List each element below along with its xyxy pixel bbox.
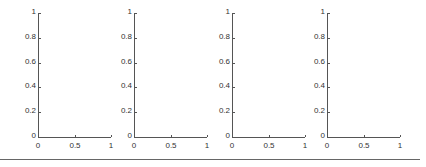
y-tick xyxy=(328,112,330,113)
y-tick xyxy=(233,87,235,88)
y-tick xyxy=(328,137,330,138)
x-tick-label: 0.5 xyxy=(354,142,374,150)
y-axis xyxy=(327,13,328,138)
y-tick xyxy=(39,87,41,88)
y-tick xyxy=(39,13,41,14)
x-tick xyxy=(364,135,365,137)
y-tick-label: 0.4 xyxy=(305,82,325,90)
y-tick-label: 0.2 xyxy=(305,107,325,115)
y-tick-label: 1 xyxy=(112,8,132,16)
y-tick xyxy=(39,137,41,138)
y-tick-label: 0.8 xyxy=(16,33,36,41)
x-tick xyxy=(207,135,208,137)
y-tick-label: 0.6 xyxy=(16,58,36,66)
y-tick-label: 0.8 xyxy=(305,33,325,41)
y-tick-label: 0 xyxy=(112,132,132,140)
y-tick xyxy=(328,87,330,88)
y-tick-label: 0.4 xyxy=(112,82,132,90)
y-tick-label: 0 xyxy=(16,132,36,140)
bottom-divider xyxy=(0,159,420,160)
y-tick xyxy=(233,137,235,138)
y-tick xyxy=(39,38,41,39)
y-tick xyxy=(135,63,137,64)
y-tick xyxy=(233,38,235,39)
y-tick xyxy=(233,63,235,64)
x-tick xyxy=(75,135,76,137)
y-tick-label: 0.2 xyxy=(210,107,230,115)
x-axis xyxy=(38,137,111,138)
x-tick-label: 0.5 xyxy=(65,142,85,150)
y-tick xyxy=(328,38,330,39)
y-tick xyxy=(233,13,235,14)
y-axis xyxy=(134,13,135,138)
x-tick-label: 0 xyxy=(317,142,337,150)
y-tick-label: 0.4 xyxy=(16,82,36,90)
y-tick-label: 0.6 xyxy=(305,58,325,66)
y-tick-label: 0 xyxy=(210,132,230,140)
y-tick xyxy=(135,38,137,39)
x-tick xyxy=(38,135,39,137)
x-tick-label: 1 xyxy=(101,142,121,150)
x-axis xyxy=(327,137,400,138)
y-tick-label: 0.6 xyxy=(112,58,132,66)
x-tick xyxy=(171,135,172,137)
x-tick-label: 0 xyxy=(124,142,144,150)
y-axis xyxy=(232,13,233,138)
y-tick xyxy=(135,13,137,14)
x-tick-label: 0.5 xyxy=(161,142,181,150)
y-tick xyxy=(135,87,137,88)
y-tick-label: 1 xyxy=(305,8,325,16)
x-axis xyxy=(134,137,207,138)
y-tick-label: 0 xyxy=(305,132,325,140)
x-tick-label: 0 xyxy=(222,142,242,150)
y-tick-label: 1 xyxy=(16,8,36,16)
y-tick xyxy=(135,137,137,138)
x-tick-label: 1 xyxy=(390,142,410,150)
x-tick-label: 1 xyxy=(295,142,315,150)
y-tick xyxy=(328,13,330,14)
y-tick xyxy=(135,112,137,113)
x-tick xyxy=(269,135,270,137)
y-tick xyxy=(233,112,235,113)
y-tick-label: 1 xyxy=(210,8,230,16)
x-tick xyxy=(232,135,233,137)
y-axis xyxy=(38,13,39,138)
y-tick-label: 0.8 xyxy=(112,33,132,41)
y-tick-label: 0.4 xyxy=(210,82,230,90)
y-tick-label: 0.8 xyxy=(210,33,230,41)
y-tick-label: 0.6 xyxy=(210,58,230,66)
x-tick-label: 0.5 xyxy=(259,142,279,150)
x-tick xyxy=(327,135,328,137)
y-tick xyxy=(39,63,41,64)
x-tick-label: 1 xyxy=(197,142,217,150)
y-tick-label: 0.2 xyxy=(16,107,36,115)
y-tick xyxy=(39,112,41,113)
y-tick-label: 0.2 xyxy=(112,107,132,115)
x-tick xyxy=(134,135,135,137)
x-tick xyxy=(400,135,401,137)
x-axis xyxy=(232,137,305,138)
y-tick xyxy=(328,63,330,64)
x-tick-label: 0 xyxy=(28,142,48,150)
